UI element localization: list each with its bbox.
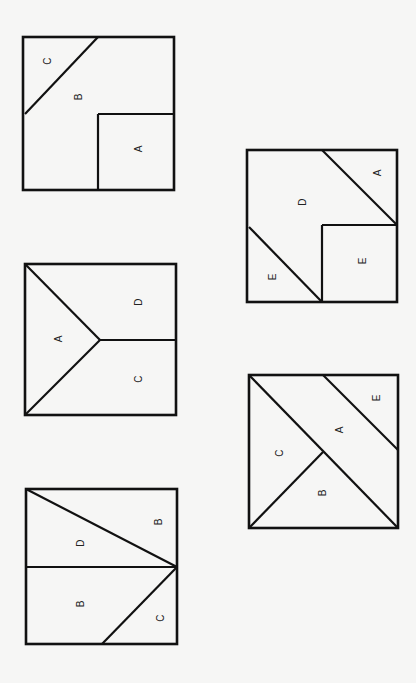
square-2: ADEE	[247, 150, 397, 302]
square-4: EACB	[249, 375, 398, 528]
piece-label: E	[267, 273, 278, 280]
cut-line	[322, 150, 397, 225]
piece-label: B	[153, 518, 164, 525]
piece-label: A	[334, 426, 345, 433]
piece-label: C	[155, 614, 166, 621]
piece-label: B	[317, 489, 328, 496]
cut-line	[102, 567, 177, 644]
piece-label: D	[297, 198, 308, 205]
piece-label: A	[372, 169, 383, 176]
piece-label: A	[53, 335, 64, 342]
dissection-diagram: CBAADEEDACEACBBDBC	[0, 0, 416, 683]
square-3: DAC	[25, 264, 176, 415]
piece-label: B	[73, 93, 84, 100]
piece-label: C	[133, 375, 144, 382]
piece-label: C	[42, 57, 53, 64]
cut-line	[249, 452, 323, 528]
squares-layer: CBAADEEDACEACBBDBC	[23, 37, 398, 644]
cut-line	[25, 264, 100, 340]
piece-label: D	[75, 539, 86, 546]
square-5: BDBC	[26, 489, 177, 644]
cut-line	[323, 375, 398, 450]
cut-line	[25, 37, 98, 114]
cut-line	[26, 489, 177, 567]
cut-line	[25, 340, 100, 415]
piece-label: E	[371, 394, 382, 401]
cut-line	[249, 227, 322, 302]
piece-label: A	[133, 145, 144, 152]
square-1: CBA	[23, 37, 174, 190]
piece-label: D	[133, 298, 144, 305]
piece-label: E	[357, 257, 368, 264]
piece-label: B	[75, 600, 86, 607]
piece-label: C	[274, 449, 285, 456]
